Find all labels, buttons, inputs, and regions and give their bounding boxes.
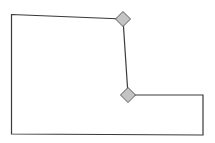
drawing-canvas[interactable] (0, 0, 215, 143)
vertex-handle-top-icon[interactable] (116, 12, 131, 27)
vertex-handle-middle-icon[interactable] (121, 88, 136, 103)
polygon-shape[interactable] (12, 15, 204, 136)
